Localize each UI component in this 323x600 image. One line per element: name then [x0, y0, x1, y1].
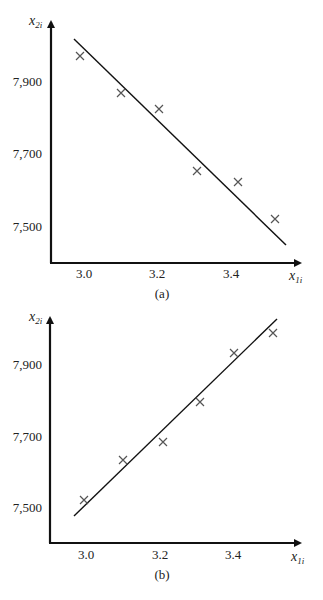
- fitted-line-b: [74, 319, 277, 516]
- x-marker: [193, 167, 201, 175]
- y-tick-label: 7,700: [13, 146, 42, 161]
- x-tick-label: 3.2: [152, 547, 168, 562]
- x-marker: [230, 349, 238, 357]
- x-marker: [269, 329, 277, 337]
- x-marker: [117, 89, 125, 97]
- x-tick-label: 3.4: [223, 266, 240, 281]
- y-tick-label: 7,700: [13, 429, 42, 444]
- y-axis-label-a: x2i: [28, 13, 43, 30]
- x-marker: [159, 438, 167, 446]
- y-tick-label: 7,500: [13, 219, 42, 234]
- panel-label-a: (a): [155, 286, 169, 301]
- x-axis-label-b: x1i: [290, 549, 305, 566]
- y-axis-label-b: x2i: [28, 309, 43, 326]
- y-tick-label: 7,500: [13, 500, 42, 515]
- x-marker: [196, 398, 204, 406]
- x-tick-label: 3.0: [78, 547, 94, 562]
- x-tick-label: 3.0: [76, 266, 92, 281]
- x-tick-label: 3.2: [149, 266, 165, 281]
- data-points-b: [80, 329, 277, 504]
- x-marker: [76, 52, 84, 60]
- panel-label-b: (b): [154, 567, 169, 582]
- x-marker: [234, 178, 242, 186]
- chart-a: x2i 7,900 7,700 7,500 3.0 3.2 3.4 x1i (a…: [13, 13, 303, 301]
- x-marker: [271, 215, 279, 223]
- figure-caption-fragment: [0, 594, 323, 600]
- fitted-line-a: [74, 39, 286, 245]
- chart-b: x2i 7,900 7,700 7,500 3.0 3.2 3.4 x1i (b…: [13, 309, 305, 582]
- x-marker: [119, 456, 127, 464]
- x-marker: [80, 496, 88, 504]
- y-tick-label: 7,900: [13, 74, 42, 89]
- y-tick-label: 7,900: [13, 357, 42, 372]
- data-points-a: [76, 52, 279, 223]
- x-tick-label: 3.4: [225, 547, 242, 562]
- x-axis-label-a: x1i: [288, 268, 303, 285]
- figure: x2i 7,900 7,700 7,500 3.0 3.2 3.4 x1i (a…: [0, 0, 323, 600]
- x-marker: [155, 105, 163, 113]
